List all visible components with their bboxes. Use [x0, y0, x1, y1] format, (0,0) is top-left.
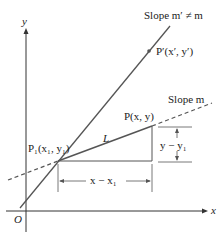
- y-axis-arrow-icon: [24, 28, 29, 34]
- x-axis-label: x: [211, 205, 216, 216]
- run-arrow-left-icon: [59, 179, 64, 183]
- p-label: P(x, y): [124, 111, 154, 122]
- rise-arrow-up-icon: [175, 128, 179, 133]
- p1-label: P₁(x₁, y₁): [28, 143, 69, 154]
- line-L-label: L: [103, 133, 109, 144]
- rise-arrow-down-icon: [175, 156, 179, 161]
- x-axis-arrow-icon: [202, 209, 208, 214]
- steep-slope-label: Slope m′ ≠ m: [144, 10, 203, 21]
- line-L-dashed-right: [152, 103, 212, 126]
- diagram-canvas: [0, 0, 223, 239]
- p-prime-point: [147, 49, 151, 53]
- main-slope-label: Slope m: [168, 94, 204, 105]
- run-label: x − x₁: [90, 175, 117, 186]
- rise-label: y − y₁: [160, 140, 187, 151]
- run-arrow-right-icon: [146, 179, 151, 183]
- y-axis-label: y: [22, 16, 27, 27]
- origin-label: O: [14, 214, 22, 225]
- p-prime-label: P′(x′, y′): [156, 46, 193, 57]
